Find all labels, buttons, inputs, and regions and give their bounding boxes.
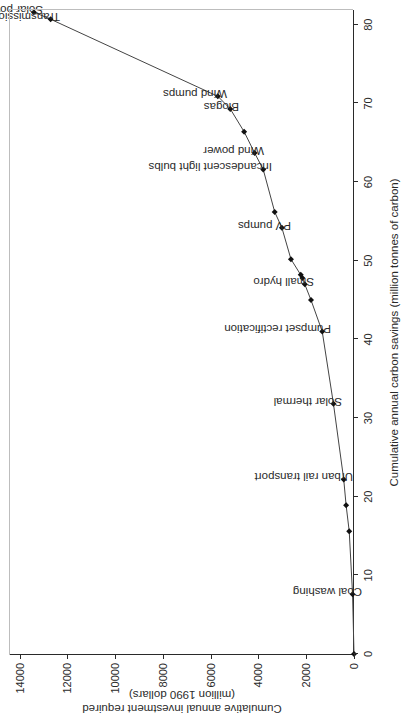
x-tick-label: 60 xyxy=(362,176,374,188)
x-tick-label: 70 xyxy=(362,97,374,109)
y-axis-title-wrapper: Cumulative annual investment required (m… xyxy=(10,691,354,713)
data-point-marker xyxy=(288,256,294,262)
point-label-incandescent-light-bulbs: Incandescent light bulbs xyxy=(149,161,272,173)
y-tick-label: 6000 xyxy=(205,663,217,687)
y-tick xyxy=(20,654,21,659)
point-label-solar-thermal: Solar thermal xyxy=(274,396,342,408)
x-tick xyxy=(353,260,358,261)
x-tick xyxy=(353,24,358,25)
y-tick-label: 12000 xyxy=(61,663,73,694)
x-tick-label: 0 xyxy=(362,651,374,657)
y-axis-title-line1: Cumulative annual investment required xyxy=(82,702,281,716)
y-tick-label: 0 xyxy=(348,663,360,669)
data-point-marker xyxy=(241,129,247,135)
y-tick xyxy=(354,654,355,659)
point-label-wind-power: Wind power xyxy=(203,145,264,157)
x-tick-label: 30 xyxy=(362,412,374,424)
point-label-urban-rail-transport: Urban rail transport xyxy=(254,471,352,483)
point-label-pumpset-rectification: Pumpset rectification xyxy=(224,324,331,336)
x-tick-label: 50 xyxy=(362,255,374,267)
y-tick-label: 2000 xyxy=(300,663,312,687)
data-point-marker xyxy=(272,209,278,215)
x-tick-label: 20 xyxy=(362,491,374,503)
x-tick xyxy=(353,181,358,182)
y-tick xyxy=(67,654,68,659)
x-tick-label: 80 xyxy=(362,19,374,31)
point-label-small-hydro: Small hydro xyxy=(253,276,314,288)
y-tick xyxy=(115,654,116,659)
x-tick xyxy=(353,574,358,575)
x-tick-label: 10 xyxy=(362,569,374,581)
y-axis-title: Cumulative annual investment required (m… xyxy=(82,688,281,716)
point-label-solar-power: Solar power xyxy=(0,4,43,16)
x-axis-title: Cumulative annual carbon savings (millio… xyxy=(388,10,400,655)
x-tick xyxy=(353,496,358,497)
data-point-marker xyxy=(308,297,314,303)
data-point-marker xyxy=(343,502,349,508)
y-tick-label: 14000 xyxy=(14,663,26,694)
x-tick-label: 40 xyxy=(362,333,374,345)
y-tick-label: 4000 xyxy=(252,663,264,687)
y-tick xyxy=(258,654,259,659)
x-tick xyxy=(353,417,358,418)
point-label-wind-pumps: Wind pumps xyxy=(163,88,227,100)
point-label-pv-pumps: PV pumps xyxy=(238,220,291,232)
x-tick xyxy=(353,102,358,103)
y-axis-title-line2: (million 1990 dollars) xyxy=(82,688,281,702)
plot-area: 01020304050607080 0200040006000800010000… xyxy=(10,10,354,655)
point-label-coal-washing: Coal washing xyxy=(293,586,362,598)
point-label-biogas: Biogas xyxy=(204,101,239,113)
x-tick xyxy=(353,338,358,339)
data-point-marker xyxy=(346,528,352,534)
y-tick xyxy=(163,654,164,659)
y-tick xyxy=(306,654,307,659)
y-tick-label: 8000 xyxy=(157,663,169,687)
y-tick xyxy=(211,654,212,659)
